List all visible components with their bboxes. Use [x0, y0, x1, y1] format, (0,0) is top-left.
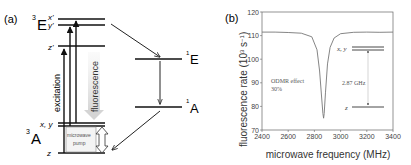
isc-arrow-upper [111, 24, 160, 57]
odmr-percent-label: 30% [271, 86, 282, 92]
excitation-label: excitation [52, 74, 62, 112]
x-tick-label: 3000 [333, 133, 349, 140]
y-axis-title-text: fluorescence rate (10 [238, 53, 249, 147]
odmr-effect-label: ODMR effect [271, 78, 304, 84]
microwave-double-arrow-icon [96, 127, 108, 153]
sublevel-z: z [46, 149, 51, 158]
sublevel-y-prime: y' [47, 21, 54, 30]
x-axis-ticks: 240026002800300032003400 [254, 130, 401, 140]
y-tick-label: 90 [251, 79, 259, 86]
triplet-ground-superscript: 3 [26, 128, 30, 135]
panel-b-label: (b) [225, 12, 238, 24]
isc-arrow-lower [112, 111, 160, 150]
figure-canvas: (a) 3 E x' y' z' 3 A x, y z excitation f… [0, 0, 411, 165]
pump-label: pump [73, 140, 86, 146]
fluorescence-label: fluorescence [90, 61, 100, 112]
sublevel-z-prime: z' [47, 43, 54, 52]
microwave-label: microwave [67, 132, 91, 138]
y-axis-ticks: 708090100110120 [247, 9, 262, 134]
y-tick-label: 100 [247, 56, 259, 63]
inset-dot-upper [367, 51, 369, 53]
y-tick-label: 80 [251, 103, 259, 110]
x-tick-label: 2400 [254, 133, 270, 140]
x-tick-label: 3200 [359, 133, 375, 140]
plot-area [262, 12, 393, 130]
panel-b-odmr-chart: (b) fluorescence rate (103 s−1) 70809010… [225, 9, 401, 161]
y-tick-label: 120 [247, 9, 259, 16]
y-axis-title: fluorescence rate (103 s−1) [238, 32, 249, 147]
x-tick-label: 2800 [307, 133, 323, 140]
inset-z-label: z [344, 104, 348, 112]
panel-a-label: (a) [4, 13, 17, 25]
sublevel-xy: x, y [39, 120, 53, 129]
triplet-ground-label: A [31, 130, 41, 147]
x-tick-label: 3400 [385, 133, 401, 140]
inset-xy-label: x, y [336, 45, 348, 53]
y-tick-label: 110 [248, 32, 259, 39]
triplet-excited-superscript: 3 [32, 14, 36, 21]
inset-dot-lower [367, 103, 369, 105]
odmr-spectrum-line [262, 32, 393, 118]
panel-a-energy-diagram: (a) 3 E x' y' z' 3 A x, y z excitation f… [4, 13, 199, 158]
singlet-upper-label: E [190, 52, 199, 67]
singlet-lower-label: A [190, 101, 199, 116]
x-axis-title: microwave frequency (MHz) [266, 149, 390, 160]
x-tick-label: 2600 [280, 133, 296, 140]
inset-splitting-label: 2.87 GHz [342, 80, 366, 86]
triplet-excited-label: E [37, 16, 47, 33]
